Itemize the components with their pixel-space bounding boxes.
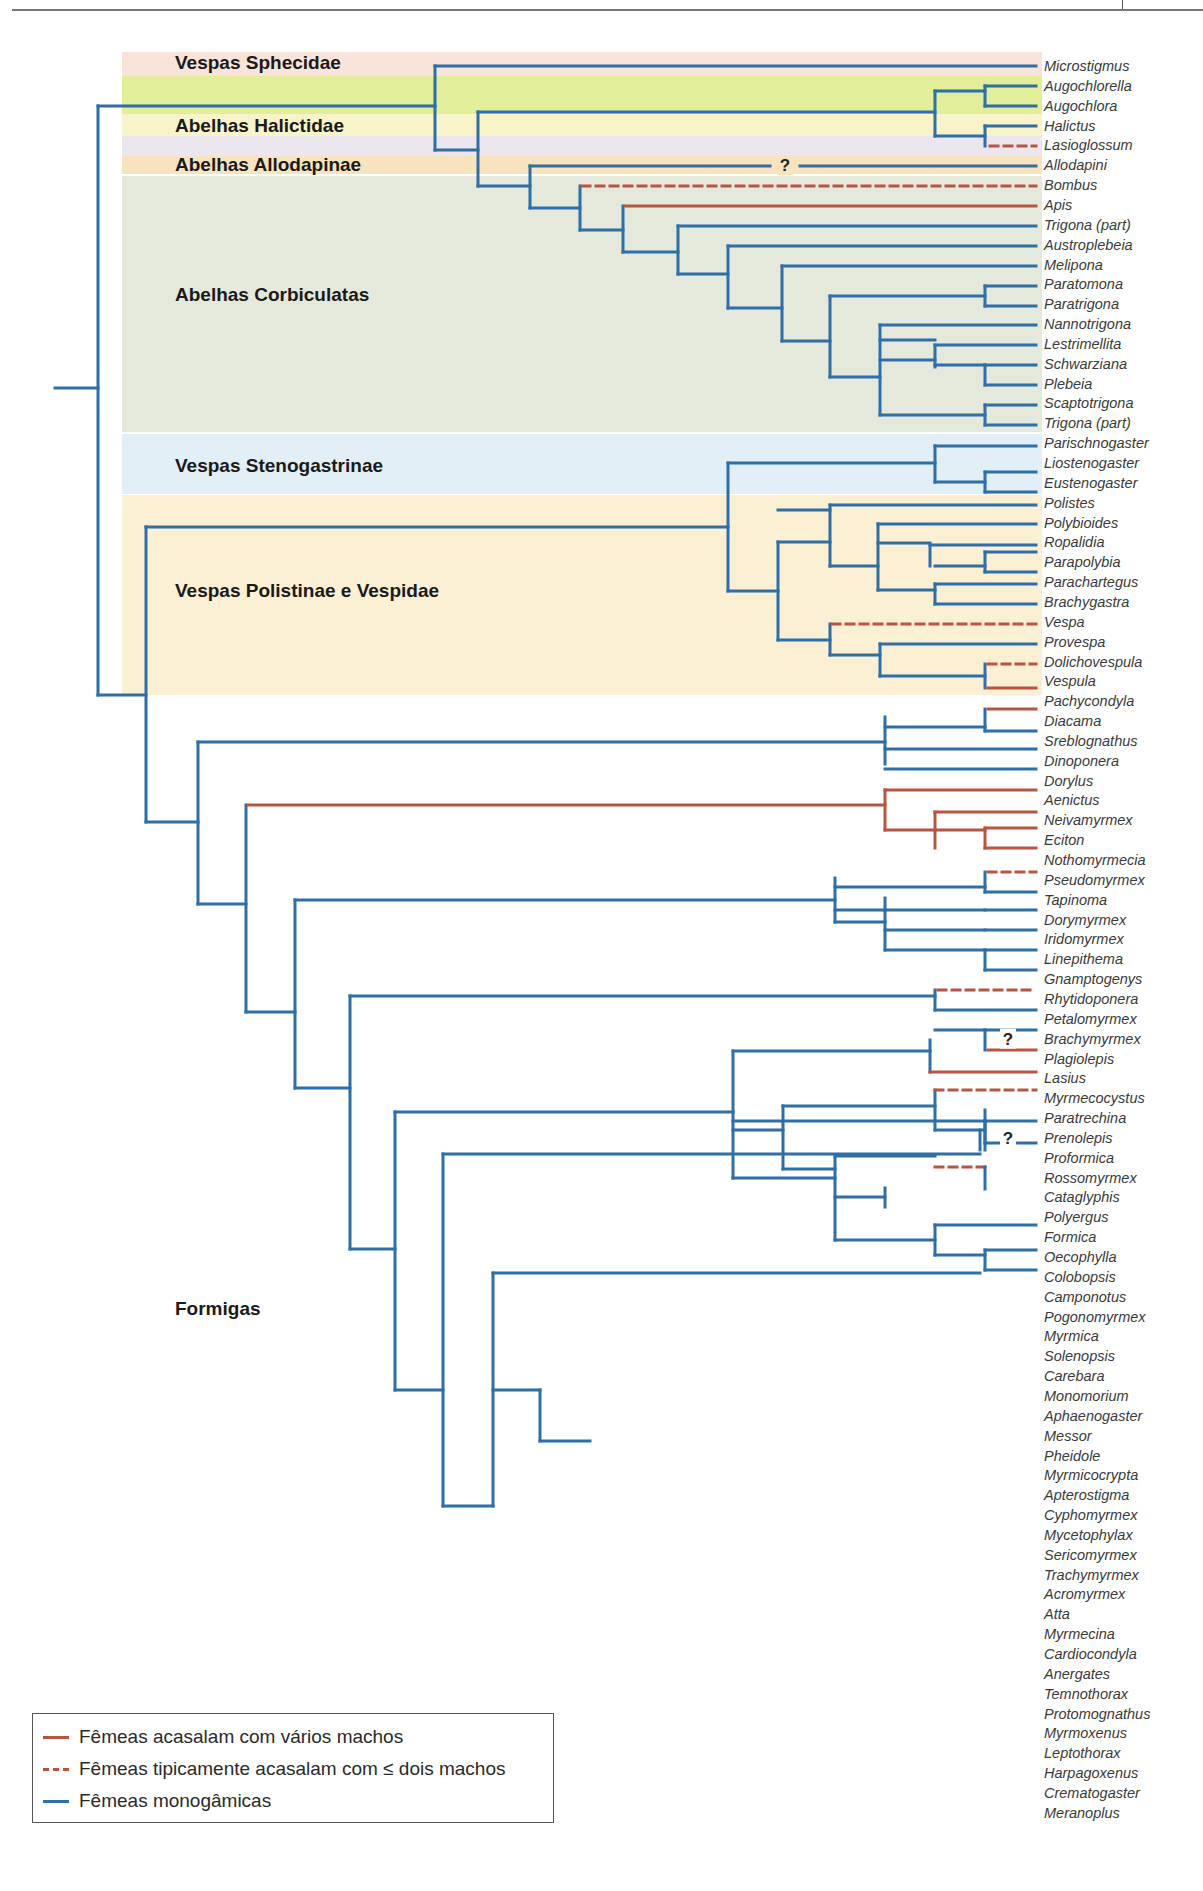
taxon-label: Lestrimellita (1044, 336, 1121, 352)
taxon-label: Crematogaster (1044, 1785, 1140, 1801)
taxon-label: Paratrechina (1044, 1110, 1126, 1126)
taxon-label: Trigona (part) (1044, 415, 1131, 431)
taxon-label: Meranoplus (1044, 1805, 1120, 1821)
taxon-label: Microstigmus (1044, 58, 1129, 74)
taxon-label: Nothomyrmecia (1044, 852, 1146, 868)
taxon-label: Plebeia (1044, 376, 1092, 392)
taxon-label: Eustenogaster (1044, 475, 1138, 491)
taxon-label: Melipona (1044, 257, 1103, 273)
legend-label: Fêmeas monogâmicas (79, 1790, 271, 1812)
taxon-label: Dinoponera (1044, 753, 1119, 769)
taxon-label: Paratrigona (1044, 296, 1119, 312)
taxon-label: Liostenogaster (1044, 455, 1139, 471)
taxon-label: Pogonomyrmex (1044, 1309, 1146, 1325)
taxon-label: Pachycondyla (1044, 693, 1134, 709)
taxon-label: Petalomyrmex (1044, 1011, 1137, 1027)
taxon-list: MicrostigmusAugochlorellaAugochloraHalic… (1044, 0, 1203, 1891)
taxon-label: Acromyrmex (1044, 1586, 1125, 1602)
taxon-label: Dorymyrmex (1044, 912, 1126, 928)
taxon-label: Apis (1044, 197, 1072, 213)
solid-blue-line-icon (43, 1800, 69, 1803)
taxon-label: Sericomyrmex (1044, 1547, 1137, 1563)
dashed-red-line-icon (43, 1768, 69, 1771)
taxon-label: Myrmoxenus (1044, 1725, 1127, 1741)
taxon-label: Camponotus (1044, 1289, 1126, 1305)
taxon-label: Solenopsis (1044, 1348, 1115, 1364)
uncertain-marker: ? (780, 156, 790, 175)
solid-red-line-icon (43, 1736, 69, 1739)
phylogenetic-tree: ??? (0, 0, 1203, 1891)
taxon-label: Myrmecocystus (1044, 1090, 1145, 1106)
taxon-label: Anergates (1044, 1666, 1110, 1682)
taxon-label: Ropalidia (1044, 534, 1104, 550)
taxon-label: Rossomyrmex (1044, 1170, 1137, 1186)
taxon-label: Polistes (1044, 495, 1095, 511)
taxon-label: Oecophylla (1044, 1249, 1117, 1265)
taxon-label: Polybioides (1044, 515, 1118, 531)
taxon-label: Gnamptogenys (1044, 971, 1142, 987)
taxon-label: Parapolybia (1044, 554, 1121, 570)
taxon-label: Halictus (1044, 118, 1096, 134)
taxon-label: Apterostigma (1044, 1487, 1129, 1503)
taxon-label: Myrmica (1044, 1328, 1099, 1344)
taxon-label: Proformica (1044, 1150, 1114, 1166)
taxon-label: Myrmecina (1044, 1626, 1115, 1642)
taxon-label: Carebara (1044, 1368, 1104, 1384)
uncertain-marker: ? (1003, 1129, 1013, 1148)
uncertain-marker: ? (1003, 1030, 1013, 1049)
taxon-label: Sreblognathus (1044, 733, 1138, 749)
taxon-label: Parachartegus (1044, 574, 1138, 590)
taxon-label: Myrmicocrypta (1044, 1467, 1138, 1483)
taxon-label: Scaptotrigona (1044, 395, 1133, 411)
legend-label: Fêmeas acasalam com vários machos (79, 1726, 403, 1748)
taxon-label: Iridomyrmex (1044, 931, 1124, 947)
taxon-label: Cataglyphis (1044, 1189, 1120, 1205)
taxon-label: Aenictus (1044, 792, 1100, 808)
taxon-label: Brachymyrmex (1044, 1031, 1141, 1047)
taxon-label: Vespa (1044, 614, 1085, 630)
taxon-label: Augochlorella (1044, 78, 1132, 94)
legend-item-multiple: Fêmeas acasalam com vários machos (43, 1726, 403, 1748)
taxon-label: Rhytidoponera (1044, 991, 1138, 1007)
taxon-label: Atta (1044, 1606, 1070, 1622)
legend-item-le-two: Fêmeas tipicamente acasalam com ≤ dois m… (43, 1758, 506, 1780)
taxon-label: Dolichovespula (1044, 654, 1142, 670)
taxon-label: Mycetophylax (1044, 1527, 1133, 1543)
taxon-label: Polyergus (1044, 1209, 1108, 1225)
taxon-label: Temnothorax (1044, 1686, 1128, 1702)
taxon-label: Bombus (1044, 177, 1097, 193)
taxon-label: Provespa (1044, 634, 1105, 650)
taxon-label: Aphaenogaster (1044, 1408, 1142, 1424)
taxon-label: Tapinoma (1044, 892, 1107, 908)
taxon-label: Protomognathus (1044, 1706, 1150, 1722)
taxon-label: Dorylus (1044, 773, 1093, 789)
taxon-label: Plagiolepis (1044, 1051, 1114, 1067)
taxon-label: Cardiocondyla (1044, 1646, 1137, 1662)
taxon-label: Paratomona (1044, 276, 1123, 292)
taxon-label: Pheidole (1044, 1448, 1100, 1464)
taxon-label: Monomorium (1044, 1388, 1129, 1404)
taxon-label: Harpagoxenus (1044, 1765, 1138, 1781)
legend: Fêmeas acasalam com vários machos Fêmeas… (32, 1713, 554, 1823)
taxon-label: Messor (1044, 1428, 1092, 1444)
taxon-label: Nannotrigona (1044, 316, 1131, 332)
taxon-label: Schwarziana (1044, 356, 1127, 372)
taxon-label: Augochlora (1044, 98, 1117, 114)
taxon-label: Vespula (1044, 673, 1096, 689)
taxon-label: Allodapini (1044, 157, 1107, 173)
taxon-label: Colobopsis (1044, 1269, 1116, 1285)
taxon-label: Prenolepis (1044, 1130, 1113, 1146)
taxon-label: Neivamyrmex (1044, 812, 1133, 828)
legend-item-monogamous: Fêmeas monogâmicas (43, 1790, 271, 1812)
taxon-label: Trigona (part) (1044, 217, 1131, 233)
taxon-label: Lasioglossum (1044, 137, 1133, 153)
legend-label: Fêmeas tipicamente acasalam com ≤ dois m… (79, 1758, 506, 1780)
taxon-label: Lasius (1044, 1070, 1086, 1086)
taxon-label: Austroplebeia (1044, 237, 1133, 253)
taxon-label: Trachymyrmex (1044, 1567, 1139, 1583)
taxon-label: Diacama (1044, 713, 1101, 729)
taxon-label: Brachygastra (1044, 594, 1129, 610)
taxon-label: Eciton (1044, 832, 1084, 848)
taxon-label: Cyphomyrmex (1044, 1507, 1137, 1523)
taxon-label: Leptothorax (1044, 1745, 1121, 1761)
